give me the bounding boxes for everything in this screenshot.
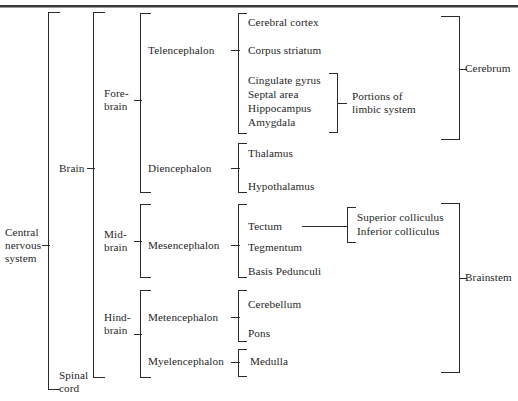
level4-item-tegmentum: Tegmentum: [248, 241, 302, 254]
bracket-colliculi: [347, 207, 356, 243]
connector-metencephalon: [231, 317, 240, 318]
connector-mesencephalon: [231, 245, 240, 246]
bracket-mesencephalon: [238, 204, 247, 278]
bracket-myelencephalon: [238, 349, 247, 377]
level3-label-diencephalon: Diencephalon: [148, 162, 211, 175]
level4-item-cerebellum: Cerebellum: [248, 298, 301, 311]
level3-label-mesencephalon: Mesencephalon: [148, 239, 220, 252]
level4-item-cerebral-cortex: Cerebral cortex: [248, 16, 319, 29]
level4-item-medulla: Medulla: [250, 355, 288, 368]
annotation-cerebrum: Cerebrum: [465, 62, 511, 75]
connector-root: [42, 245, 50, 246]
level5-item-inferior-colliculus: Inferior colliculus: [357, 225, 439, 238]
level3-label-telencephalon: Telencephalon: [148, 44, 214, 57]
bracket-brainstem: [441, 203, 460, 373]
bracket-cerebrum: [441, 16, 460, 140]
bracket-telencephalon: [238, 13, 247, 134]
level3-label-myelencephalon: Myelencephalon: [148, 355, 224, 368]
bracket-limbic-system: [329, 73, 338, 133]
level4-item-pons: Pons: [248, 327, 270, 340]
top-rule-shadow: [0, 7, 518, 8]
bracket-metencephalon: [238, 290, 247, 342]
connector-forebrain: [134, 100, 142, 101]
level4-item-basis-pedunculi: Basis Pedunculi: [248, 265, 321, 278]
level1-label-brain: Brain: [59, 162, 84, 175]
level3-label-metencephalon: Metencephalon: [148, 311, 218, 324]
level4-item-corpus-striatum: Corpus striatum: [248, 44, 321, 57]
level5-item-superior-colliculus: Superior colliculus: [357, 211, 444, 224]
level4-item-tectum: Tectum: [248, 220, 282, 233]
annotation-limbic-system: Portions of limbic system: [352, 90, 442, 116]
bracket-central-nervous-system: [48, 12, 60, 390]
annotation-brainstem: Brainstem: [465, 271, 512, 284]
connector-myelencephalon: [231, 362, 240, 363]
level4-item-septal-area: Septal area: [248, 88, 298, 101]
connector-midbrain: [134, 241, 142, 242]
connector-brain: [87, 168, 95, 169]
connector-limbic-system: [338, 103, 347, 104]
level4-item-amygdala: Amygdala: [248, 116, 295, 129]
level4-item-cingulate-gyrus: Cingulate gyrus: [248, 74, 321, 87]
connector-tectum-colliculi: [302, 226, 347, 227]
level4-item-hippocampus: Hippocampus: [248, 102, 311, 115]
level4-item-hypothalamus: Hypothalamus: [248, 180, 314, 193]
connector-hindbrain: [134, 334, 142, 335]
connector-diencephalon: [231, 168, 240, 169]
connector-telencephalon: [231, 50, 240, 51]
cns-hierarchy-diagram: Central nervous system Brain Spinal cord…: [0, 0, 518, 401]
level4-item-thalamus: Thalamus: [248, 147, 293, 160]
